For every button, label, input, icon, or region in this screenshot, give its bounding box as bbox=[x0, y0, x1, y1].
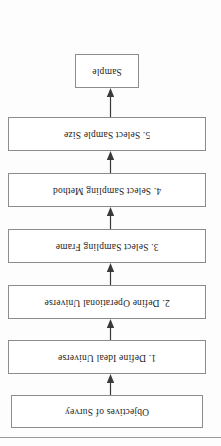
flow-node-label: 1. Define Ideal Universe bbox=[58, 352, 156, 362]
arrow-step4-to-step5 bbox=[104, 151, 117, 173]
arrow-step2-to-step3 bbox=[104, 263, 117, 285]
flow-node-step2: 2. Define Operational Universe bbox=[8, 285, 206, 319]
scanned-page: Objectives of Survey 1. Define Ideal Uni… bbox=[0, 0, 221, 446]
flow-node-step5: 5. Select Sample Size bbox=[8, 117, 206, 151]
arrow-step5-to-sample bbox=[104, 88, 117, 117]
flow-node-label: Objectives of Survey bbox=[65, 407, 149, 417]
flow-node-step1: 1. Define Ideal Universe bbox=[8, 340, 206, 374]
flow-node-label: 2. Define Operational Universe bbox=[44, 297, 169, 307]
arrow-step1-to-step2 bbox=[104, 319, 117, 340]
flow-node-label: 3. Select Sampling Frame bbox=[56, 241, 159, 251]
flow-node-label: Sample bbox=[92, 66, 122, 76]
sampling-process-flowchart: Objectives of Survey 1. Define Ideal Uni… bbox=[0, 0, 221, 437]
arrow-objectives-to-step1 bbox=[104, 374, 117, 395]
flow-node-label: 5. Select Sample Size bbox=[64, 129, 151, 139]
flow-node-step3: 3. Select Sampling Frame bbox=[8, 229, 206, 263]
flow-node-objectives: Objectives of Survey bbox=[11, 395, 203, 428]
flow-node-label: 4. Select Sampling Method bbox=[53, 185, 161, 195]
flow-node-step4: 4. Select Sampling Method bbox=[8, 173, 206, 207]
page-footer-rule bbox=[0, 437, 221, 438]
arrow-step3-to-step4 bbox=[104, 207, 117, 229]
flow-node-sample: Sample bbox=[75, 54, 139, 88]
